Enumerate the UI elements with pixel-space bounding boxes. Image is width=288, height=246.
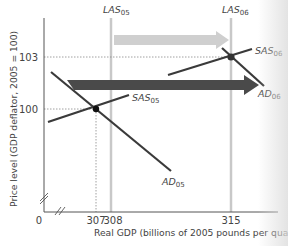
aggregate-supply-demand-chart: 103 100 0 307 308 315 Real GDP (billions… (0, 0, 288, 246)
y-axis-title: Price level (GDP deflator, 2005 = 100) (8, 31, 19, 207)
sas05-curve (48, 95, 129, 122)
sas05-label: SAS05 (132, 92, 159, 105)
x-axis-break-icon (55, 207, 65, 215)
las06-label: LAS06 (222, 4, 249, 17)
page-edge-shadow (258, 0, 288, 246)
x-tick-0: 0 (36, 215, 42, 226)
equilibrium-2005 (93, 106, 99, 112)
x-tick-308: 308 (103, 215, 122, 226)
ad05-label: AD05 (161, 176, 185, 189)
las05-label: LAS05 (103, 4, 130, 17)
y-tick-100: 100 (19, 104, 38, 115)
equilibrium-2006 (227, 53, 234, 60)
x-tick-315: 315 (221, 215, 240, 226)
las-shift-arrow (114, 31, 229, 49)
y-tick-103: 103 (19, 52, 38, 63)
sas06-curve (168, 49, 252, 75)
